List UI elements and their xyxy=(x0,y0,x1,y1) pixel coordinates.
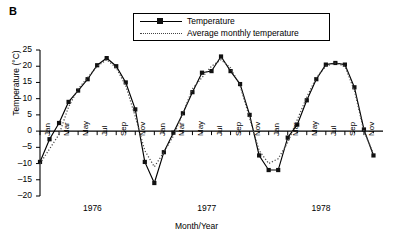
x-tick-label: Nov xyxy=(367,122,376,136)
x-tick-label: Mar xyxy=(62,122,71,136)
x-tick-label: Nov xyxy=(138,122,147,136)
data-point-marker xyxy=(114,64,118,68)
data-point-marker xyxy=(105,56,109,60)
data-point-marker xyxy=(200,71,204,75)
x-tick-label: May xyxy=(310,121,319,136)
year-label: 1976 xyxy=(83,203,102,213)
chart-figure: B Temperature (°C) Month/Year Temperatur… xyxy=(0,0,393,237)
data-point-marker xyxy=(66,100,70,104)
y-tick-label: 25 xyxy=(10,44,32,54)
y-tick-label: –15 xyxy=(10,174,32,184)
data-point-marker xyxy=(219,54,223,58)
data-point-marker xyxy=(209,69,213,73)
x-tick-label: Sep xyxy=(234,122,243,136)
data-point-marker xyxy=(152,181,156,185)
y-tick-label: –20 xyxy=(10,190,32,200)
x-tick-label: Jul xyxy=(100,126,109,136)
x-tick-label: Jul xyxy=(215,126,224,136)
data-point-marker xyxy=(286,136,290,140)
x-tick-label: Mar xyxy=(177,122,186,136)
year-label: 1978 xyxy=(312,203,331,213)
x-tick-label: Jan xyxy=(158,123,167,136)
y-tick-label: 10 xyxy=(10,93,32,103)
data-point-marker xyxy=(57,121,61,125)
x-tick-label: May xyxy=(81,121,90,136)
x-tick-label: Sep xyxy=(348,122,357,136)
data-point-marker xyxy=(267,168,271,172)
x-tick-label: May xyxy=(196,121,205,136)
y-tick-label: 20 xyxy=(10,60,32,70)
data-point-marker xyxy=(143,160,147,164)
x-tick-label: Nov xyxy=(253,122,262,136)
y-tick-label: –5 xyxy=(10,141,32,151)
x-tick-label: Jul xyxy=(329,126,338,136)
y-tick-label: –10 xyxy=(10,158,32,168)
year-label: 1977 xyxy=(197,203,216,213)
data-point-marker xyxy=(190,90,194,94)
data-point-marker xyxy=(47,137,51,141)
x-tick-label: Sep xyxy=(119,122,128,136)
data-point-marker xyxy=(276,168,280,172)
x-tick-label: Mar xyxy=(291,122,300,136)
x-tick-label: Jan xyxy=(43,123,52,136)
data-point-marker xyxy=(257,153,261,157)
series-line-temperature xyxy=(40,56,373,183)
y-tick-label: 15 xyxy=(10,76,32,86)
y-tick-label: 5 xyxy=(10,109,32,119)
data-point-marker xyxy=(371,153,375,157)
x-tick-label: Jan xyxy=(272,123,281,136)
plot-area xyxy=(0,0,393,237)
y-tick-label: 0 xyxy=(10,125,32,135)
data-point-marker xyxy=(133,107,137,111)
